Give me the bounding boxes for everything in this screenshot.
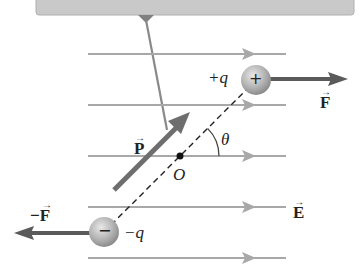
force-arrow-negative	[14, 226, 94, 240]
angle-label: θ	[221, 131, 229, 148]
force-arrow-positive	[266, 72, 348, 86]
field-label: →E	[293, 204, 304, 221]
center-label: O	[173, 166, 185, 183]
positive-charge-label: +q	[208, 69, 228, 86]
callout-box	[36, 0, 354, 130]
negative-charge-label: −q	[124, 224, 144, 241]
field-line-4	[88, 201, 286, 213]
field-line-2	[88, 99, 286, 111]
minus-sign-icon: −	[98, 223, 111, 239]
callout-pointer-line	[146, 20, 167, 130]
force-negative-label: →−F	[30, 207, 50, 224]
angle-arc	[208, 128, 219, 156]
arrowhead-icon	[14, 226, 34, 240]
dipole-diagram: + − +q −q O θ →P →F →−F →E	[0, 0, 364, 272]
force-positive-label: →F	[320, 94, 330, 111]
plus-sign-icon: +	[249, 71, 262, 87]
field-line-3	[88, 150, 286, 162]
arrowhead-icon	[328, 72, 348, 86]
dipole-moment-label: →P	[134, 140, 144, 157]
field-line-5	[88, 252, 286, 264]
diagram-canvas	[0, 0, 364, 272]
field-line-1	[88, 48, 286, 60]
center-point	[177, 153, 184, 160]
